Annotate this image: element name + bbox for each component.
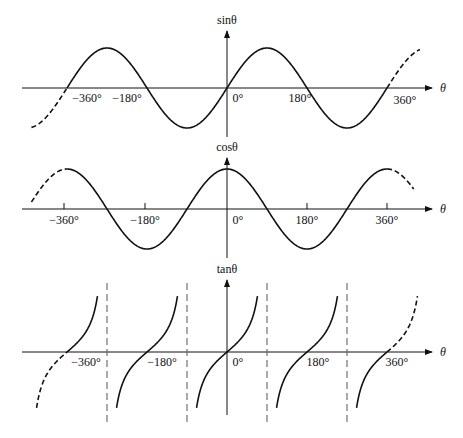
trig-graphs-figure: sinθ θ −360° −180° 0° 180° 360° cosθ θ −… xyxy=(0,0,463,438)
svg-text:0°: 0° xyxy=(233,91,244,105)
cos-theta-label: θ xyxy=(440,202,446,216)
sin-axis-label: sinθ xyxy=(217,13,237,27)
cos-tick-labels: −360° −180° 0° 180° 360° xyxy=(49,213,398,227)
svg-text:360°: 360° xyxy=(394,93,417,107)
svg-text:−360°: −360° xyxy=(49,213,79,227)
tan-branch xyxy=(357,352,387,408)
tan-axis-label: tanθ xyxy=(217,262,238,276)
svg-text:−360°: −360° xyxy=(72,91,102,105)
svg-text:−180°: −180° xyxy=(130,213,160,227)
cos-panel: cosθ θ −360° −180° 0° 180° 360° xyxy=(22,140,446,258)
svg-text:180°: 180° xyxy=(289,91,312,105)
cos-tick-marks xyxy=(64,203,387,209)
svg-text:−360°: −360° xyxy=(71,355,101,369)
svg-text:360°: 360° xyxy=(376,213,399,227)
svg-text:360°: 360° xyxy=(386,355,409,369)
tan-branch xyxy=(67,296,97,352)
svg-text:0°: 0° xyxy=(233,213,244,227)
sin-curve-extension-left xyxy=(31,88,67,127)
sin-panel: sinθ θ −360° −180° 0° 180° 360° xyxy=(22,13,446,137)
svg-text:180°: 180° xyxy=(296,213,319,227)
svg-text:180°: 180° xyxy=(307,355,330,369)
cos-curve-extension-left xyxy=(31,169,67,202)
svg-text:0°: 0° xyxy=(233,355,244,369)
sin-curve-extension-right xyxy=(387,50,420,88)
svg-text:−180°: −180° xyxy=(112,91,142,105)
tan-panel: tanθ θ −360° −180° 0° 180° 360° xyxy=(22,262,446,422)
svg-text:−180°: −180° xyxy=(147,355,177,369)
cos-axis-label: cosθ xyxy=(216,140,238,154)
tan-theta-label: θ xyxy=(440,345,446,359)
sin-theta-label: θ xyxy=(440,81,446,95)
sin-tick-labels: −360° −180° 0° 180° 360° xyxy=(72,91,416,107)
tan-curve-extension xyxy=(387,296,417,352)
cos-curve-extension-right xyxy=(387,169,414,189)
tan-curve-extension xyxy=(37,352,67,408)
tan-tick-labels: −360° −180° 0° 180° 360° xyxy=(71,355,408,369)
